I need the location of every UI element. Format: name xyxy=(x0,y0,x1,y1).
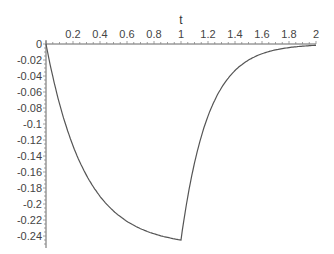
x-tick-label: 1.8 xyxy=(281,28,296,40)
line-chart: 0.20.40.60.811.21.41.61.82 0-0.02-0.04-0… xyxy=(0,0,334,254)
y-tick-label: -0.1 xyxy=(23,118,42,130)
y-tick-label: -0.24 xyxy=(17,230,42,242)
y-tick-label: -0.06 xyxy=(17,86,42,98)
y-tick-label: -0.02 xyxy=(17,54,42,66)
y-tick-label: -0.08 xyxy=(17,102,42,114)
x-tick-label: 0.8 xyxy=(146,28,161,40)
y-tick-label: -0.18 xyxy=(17,182,42,194)
x-tick-label: 0.4 xyxy=(92,28,107,40)
x-tick-label: 1.4 xyxy=(227,28,242,40)
y-axis: 0-0.02-0.04-0.06-0.08-0.1-0.12-0.14-0.16… xyxy=(17,38,46,248)
y-tick-label: -0.16 xyxy=(17,166,42,178)
x-tick-label: 0.2 xyxy=(65,28,80,40)
x-tick-label: 2 xyxy=(313,28,319,40)
x-tick-label: 0.6 xyxy=(119,28,134,40)
y-tick-label: -0.12 xyxy=(17,134,42,146)
x-tick-label: 1.6 xyxy=(254,28,269,40)
y-tick-label: -0.04 xyxy=(17,70,42,82)
x-tick-label: 1 xyxy=(178,28,184,40)
data-series-curve xyxy=(46,44,316,240)
y-tick-label: -0.14 xyxy=(17,150,42,162)
y-tick-label: 0 xyxy=(36,38,42,50)
x-axis-title: t xyxy=(179,13,183,27)
y-tick-label: -0.22 xyxy=(17,214,42,226)
x-axis: 0.20.40.60.811.21.41.61.82 xyxy=(46,28,319,44)
x-tick-label: 1.2 xyxy=(200,28,215,40)
y-tick-label: -0.2 xyxy=(23,198,42,210)
